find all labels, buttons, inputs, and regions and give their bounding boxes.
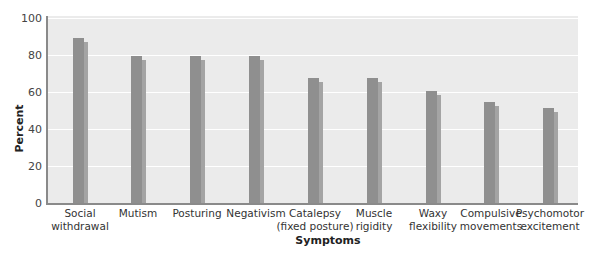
bar <box>249 56 260 203</box>
y-tick-label: 20 <box>14 161 42 173</box>
bar <box>484 102 495 203</box>
bar <box>543 108 554 203</box>
y-tick-label: 0 <box>14 198 42 210</box>
y-axis-line <box>46 16 48 204</box>
gridline <box>48 55 578 56</box>
bar <box>367 78 378 203</box>
y-axis-label: Percent <box>13 104 26 154</box>
bar <box>426 91 437 203</box>
x-tick-label: Psychomotorexcitement <box>510 207 589 233</box>
bar <box>73 38 84 204</box>
bar <box>190 56 201 203</box>
y-tick-label: 60 <box>14 87 42 99</box>
bar <box>131 56 142 203</box>
y-tick-label: 80 <box>14 50 42 62</box>
y-tick-label: 100 <box>14 13 42 25</box>
x-axis-label: Symptoms <box>283 234 373 247</box>
bar <box>308 78 319 203</box>
x-axis-line <box>46 203 578 205</box>
gridline <box>48 18 578 19</box>
